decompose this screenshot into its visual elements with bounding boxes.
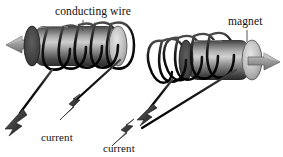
label-current-right: current: [103, 142, 135, 154]
label-magnet: magnet: [228, 15, 263, 28]
label-current-left: current: [41, 131, 73, 143]
figure-canvas: conducting wire magnet current current: [0, 0, 283, 157]
label-conducting-wire: conducting wire: [55, 5, 131, 18]
solenoid-diagram: conducting wire magnet current current: [0, 0, 283, 157]
magnet-cap-left: [24, 26, 40, 66]
